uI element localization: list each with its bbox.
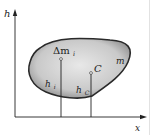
delta-symbol: Δm <box>53 45 70 56</box>
mass-element-point <box>60 58 63 61</box>
element-subscript: i <box>73 50 75 58</box>
mass-label: m <box>116 56 125 66</box>
center-of-mass-point <box>90 72 93 75</box>
figure-border <box>149 0 150 135</box>
x-axis <box>15 115 147 119</box>
y-axis-label: h <box>4 8 10 19</box>
y-axis <box>13 9 17 117</box>
x-axis-label: x <box>135 123 140 133</box>
center-of-mass-diagram: h x Δm i C m h i h C <box>0 0 152 135</box>
center-label: C <box>94 63 102 74</box>
